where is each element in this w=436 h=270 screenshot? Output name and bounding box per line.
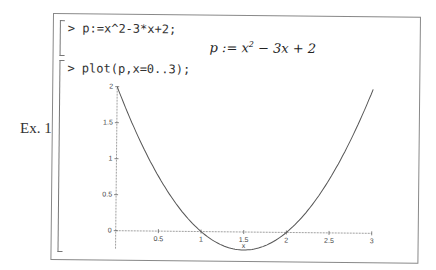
output-rhs: − 3x + 2	[254, 40, 316, 56]
maple-worksheet: > p:=x^2-3*x+2; p := x2 − 3x + 2 > plot(…	[50, 13, 421, 264]
y-tick-label: 1.5	[103, 119, 113, 126]
command-text: plot(p,x=0..3);	[82, 61, 191, 76]
x-tick-label: 2.5	[324, 237, 334, 244]
ticks: 0.511.522.53x00.511.52	[102, 83, 375, 251]
command-text: p:=x^2-3*x+2;	[82, 21, 176, 36]
y-tick-label: 0	[108, 227, 112, 234]
group-bracket	[57, 60, 64, 252]
y-tick-label: 0.5	[102, 191, 112, 198]
x-axis-label: x	[242, 242, 246, 249]
prompt-symbol: >	[68, 21, 75, 35]
example-label: Ex. 1	[20, 120, 52, 137]
y-axis	[116, 87, 118, 249]
x-tick-label: 0.5	[153, 235, 163, 242]
plot: 0.511.522.53x00.511.52	[81, 78, 383, 261]
x-tick-label: 1	[199, 236, 203, 243]
output-math-1: p := x2 − 3x + 2	[210, 40, 317, 56]
prompt-symbol: >	[67, 61, 74, 75]
x-tick-label: 3	[370, 237, 374, 244]
input-line-2[interactable]: > plot(p,x=0..3);	[67, 61, 190, 76]
input-line-1[interactable]: > p:=x^2-3*x+2;	[68, 21, 177, 36]
function-curve	[116, 87, 374, 252]
x-tick-label: 2	[284, 236, 288, 243]
y-tick-label: 1	[109, 155, 113, 162]
group-bracket	[60, 20, 65, 56]
output-lhs: p := x	[210, 40, 249, 55]
y-tick-label: 2	[109, 83, 113, 90]
